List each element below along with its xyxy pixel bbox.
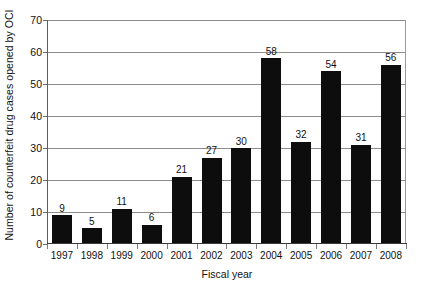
y-tick-label-70: 70 xyxy=(20,15,42,25)
x-tick-label-1998: 1998 xyxy=(77,250,107,261)
x-tick-mark-2 xyxy=(107,244,108,249)
bar-2000[interactable] xyxy=(142,225,162,244)
y-tick-label-60: 60 xyxy=(20,47,42,57)
bar-value-2001: 21 xyxy=(167,165,197,175)
bar-value-1997: 9 xyxy=(47,204,77,214)
bar-2002[interactable] xyxy=(202,158,222,244)
y-axis-title-text: Number of counterfeit drug cases opened … xyxy=(3,9,15,240)
x-axis-tick-labels: 1997 1998 1999 2000 2001 2002 2003 2004 … xyxy=(47,250,407,264)
bar-group-2000: 6 xyxy=(137,20,167,244)
x-axis-title: Fiscal year xyxy=(47,268,407,280)
x-axis-tick-marks xyxy=(47,244,407,249)
y-tick-label-40: 40 xyxy=(20,111,42,121)
x-tick-mark-1 xyxy=(77,244,78,249)
bars-layer: 9 5 11 6 21 27 30 58 xyxy=(47,20,406,244)
y-tick-label-0: 0 xyxy=(20,239,42,249)
x-tick-label-1997: 1997 xyxy=(47,250,77,261)
bar-value-1998: 5 xyxy=(77,217,107,227)
x-tick-mark-11 xyxy=(376,244,377,249)
bar-1998[interactable] xyxy=(82,228,102,244)
x-tick-mark-10 xyxy=(346,244,347,249)
y-tick-label-10: 10 xyxy=(20,207,42,217)
bar-2006[interactable] xyxy=(321,71,341,244)
bar-group-1999: 11 xyxy=(107,20,137,244)
x-tick-mark-5 xyxy=(197,244,198,249)
bar-group-2006: 54 xyxy=(316,20,346,244)
bar-2007[interactable] xyxy=(351,145,371,244)
bar-group-2004: 58 xyxy=(256,20,286,244)
bar-group-2003: 30 xyxy=(226,20,256,244)
x-tick-label-2006: 2006 xyxy=(316,250,346,261)
bar-chart: Number of counterfeit drug cases opened … xyxy=(0,0,423,289)
bar-group-2005: 32 xyxy=(286,20,316,244)
bar-1999[interactable] xyxy=(112,209,132,244)
x-tick-mark-3 xyxy=(137,244,138,249)
x-tick-label-2004: 2004 xyxy=(256,250,286,261)
x-tick-label-2001: 2001 xyxy=(167,250,197,261)
x-tick-mark-8 xyxy=(286,244,287,249)
bar-value-2006: 54 xyxy=(316,60,346,70)
x-tick-mark-4 xyxy=(167,244,168,249)
bar-group-2008: 56 xyxy=(376,20,406,244)
bar-2004[interactable] xyxy=(261,58,281,244)
bar-2005[interactable] xyxy=(291,142,311,244)
x-tick-mark-0 xyxy=(47,244,48,249)
x-tick-label-2005: 2005 xyxy=(286,250,316,261)
bar-value-2002: 27 xyxy=(197,146,227,156)
bar-2003[interactable] xyxy=(231,148,251,244)
x-tick-mark-6 xyxy=(226,244,227,249)
y-axis-tick-labels: 70 60 50 40 30 20 10 0 xyxy=(20,0,42,289)
bar-group-2002: 27 xyxy=(197,20,227,244)
bar-value-2004: 58 xyxy=(256,47,286,57)
bar-value-1999: 11 xyxy=(107,197,137,207)
bar-value-2003: 30 xyxy=(226,137,256,147)
bar-group-1997: 9 xyxy=(47,20,77,244)
bar-1997[interactable] xyxy=(52,215,72,244)
y-tick-label-50: 50 xyxy=(20,79,42,89)
bar-value-2007: 31 xyxy=(346,133,376,143)
x-tick-mark-9 xyxy=(316,244,317,249)
x-tick-label-2007: 2007 xyxy=(346,250,376,261)
bar-value-2005: 32 xyxy=(286,130,316,140)
y-tick-label-20: 20 xyxy=(20,175,42,185)
bar-value-2008: 56 xyxy=(376,53,406,63)
bar-value-2000: 6 xyxy=(137,213,167,223)
x-tick-mark-12 xyxy=(406,244,407,249)
y-tick-label-30: 30 xyxy=(20,143,42,153)
bar-2008[interactable] xyxy=(381,65,401,244)
bar-group-1998: 5 xyxy=(77,20,107,244)
x-tick-label-1999: 1999 xyxy=(107,250,137,261)
bar-2001[interactable] xyxy=(172,177,192,244)
x-tick-label-2000: 2000 xyxy=(137,250,167,261)
bar-group-2001: 21 xyxy=(167,20,197,244)
x-tick-label-2002: 2002 xyxy=(197,250,227,261)
bar-group-2007: 31 xyxy=(346,20,376,244)
x-tick-label-2008: 2008 xyxy=(376,250,406,261)
x-tick-label-2003: 2003 xyxy=(226,250,256,261)
x-tick-mark-7 xyxy=(256,244,257,249)
y-axis-title: Number of counterfeit drug cases opened … xyxy=(0,0,18,250)
